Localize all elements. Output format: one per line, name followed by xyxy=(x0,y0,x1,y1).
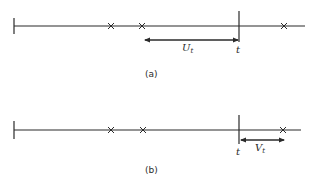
panel-b: Vt t (b) xyxy=(14,115,301,175)
caption-b: (b) xyxy=(145,165,158,175)
time-label-t: t xyxy=(236,146,241,157)
panel-a: Ut t (a) xyxy=(14,11,305,79)
caption-a: (a) xyxy=(145,69,158,79)
arrow-label-u: Ut xyxy=(182,42,193,55)
arrow-label-v: Vt xyxy=(255,142,265,155)
time-label-t: t xyxy=(236,44,241,55)
renewal-process-diagram: Ut t (a) Vt t (b) xyxy=(0,0,318,182)
